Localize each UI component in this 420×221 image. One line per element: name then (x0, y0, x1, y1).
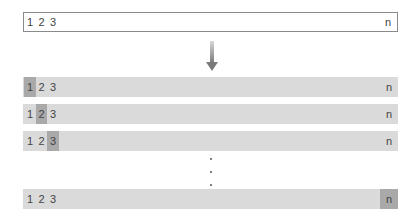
step-row-3: 1 2 3 n (23, 131, 398, 151)
step-cell-n: n (380, 131, 398, 151)
step-cell-n: n (380, 104, 398, 124)
step-cell-1: 1 (24, 189, 36, 209)
step-cell-2-highlighted: 2 (36, 104, 47, 124)
step-cell-3: 3 (47, 77, 59, 97)
array-cell-1: 1 (24, 13, 36, 31)
input-array: 1 2 3 n (23, 12, 398, 32)
step-row-n: 1 2 3 n (23, 189, 398, 209)
array-cell-3: 3 (47, 13, 59, 31)
dot (210, 184, 212, 186)
step-cell-3: 3 (47, 104, 59, 124)
array-cell-n: n (379, 13, 397, 31)
array-cell-2: 2 (36, 13, 47, 31)
step-cell-2: 2 (36, 77, 47, 97)
step-cell-n: n (380, 77, 398, 97)
step-cell-3: 3 (47, 189, 59, 209)
step-row-2: 1 2 3 n (23, 104, 398, 124)
step-cell-1: 1 (24, 104, 36, 124)
dot (210, 158, 212, 160)
vertical-ellipsis-icon (207, 158, 215, 186)
down-arrow-icon (206, 40, 218, 72)
dot (210, 171, 212, 173)
step-cell-2: 2 (36, 131, 47, 151)
step-cell-3-highlighted: 3 (47, 131, 59, 151)
step-cell-2: 2 (36, 189, 47, 209)
step-cell-1: 1 (24, 131, 36, 151)
step-cell-n-highlighted: n (380, 189, 398, 209)
step-row-1: 1 2 3 n (23, 77, 398, 97)
step-cell-1-highlighted: 1 (24, 77, 36, 97)
